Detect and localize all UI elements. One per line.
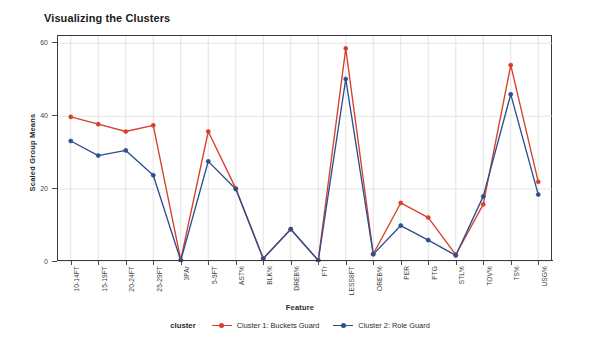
x-axis-tick-label: 20-24FT <box>128 266 135 292</box>
legend-label: Cluster 1: Buckets Guard <box>237 321 320 330</box>
data-point <box>151 173 155 177</box>
x-axis-tick <box>346 261 347 265</box>
data-point <box>206 129 210 133</box>
data-point <box>96 122 100 126</box>
data-point <box>69 115 73 119</box>
data-point <box>509 92 513 96</box>
chart-figure: Visualizing the Clusters 0204060 Scaled … <box>0 0 600 347</box>
data-point <box>454 253 458 257</box>
data-point <box>426 238 430 242</box>
x-axis-tick-label: AST% <box>238 266 245 285</box>
data-point <box>344 46 348 50</box>
y-axis-title: Scaled Group Means <box>28 83 37 223</box>
x-axis-tick <box>291 261 292 265</box>
x-axis-tick <box>318 261 319 265</box>
legend-item[interactable]: Cluster 1: Buckets Guard <box>212 321 320 330</box>
legend: cluster Cluster 1: Buckets GuardCluster … <box>0 321 600 330</box>
x-axis-tick-label: TS% <box>513 266 520 281</box>
data-point <box>206 159 210 163</box>
x-axis-tick-label: 15-19FT <box>101 266 108 292</box>
data-point <box>124 129 128 133</box>
x-axis-tick-label: STL% <box>458 266 465 284</box>
data-point <box>289 227 293 231</box>
x-axis-line <box>57 260 553 261</box>
x-axis-tick <box>483 261 484 265</box>
legend-items: Cluster 1: Buckets GuardCluster 2: Role … <box>212 321 430 330</box>
legend-label: Cluster 2: Role Guard <box>358 321 429 330</box>
y-axis-tick <box>52 115 57 116</box>
x-axis-tick <box>208 261 209 265</box>
x-axis-tick <box>428 261 429 265</box>
data-point <box>481 194 485 198</box>
y-axis-line <box>57 35 58 261</box>
data-point <box>234 187 238 191</box>
x-axis-tick-label: PER <box>403 266 410 280</box>
plot-panel <box>57 35 552 261</box>
legend-item[interactable]: Cluster 2: Role Guard <box>333 321 429 330</box>
y-axis-tick <box>52 188 57 189</box>
data-point <box>124 148 128 152</box>
x-axis-tick <box>98 261 99 265</box>
x-axis-tick <box>181 261 182 265</box>
x-axis-tick <box>153 261 154 265</box>
x-axis-tick <box>511 261 512 265</box>
x-axis-tick <box>456 261 457 265</box>
y-axis-tick <box>52 42 57 43</box>
x-axis-tick-label: PTG <box>431 266 438 280</box>
data-point <box>151 123 155 127</box>
x-axis-tick-label: TOV% <box>486 266 493 286</box>
x-axis-tick <box>401 261 402 265</box>
data-point <box>399 223 403 227</box>
x-axis-tick-label: 5-9FT <box>211 266 218 284</box>
y-axis-tick-label: 0 <box>24 258 48 265</box>
data-point <box>399 201 403 205</box>
x-axis-tick-label: DREB% <box>293 266 300 291</box>
x-axis-title: Feature <box>0 303 600 312</box>
legend-title: cluster <box>170 321 196 330</box>
data-point <box>344 77 348 81</box>
x-axis-tick-label: 25-29FT <box>156 266 163 292</box>
data-point <box>536 192 540 196</box>
x-axis-tick <box>373 261 374 265</box>
data-point <box>69 139 73 143</box>
chart-title: Visualizing the Clusters <box>44 12 170 24</box>
x-axis-tick <box>126 261 127 265</box>
data-point <box>481 202 485 206</box>
x-axis-tick-label: LESS8FT <box>348 266 355 295</box>
x-axis-tick-label: 10-14FT <box>73 266 80 292</box>
data-point <box>536 180 540 184</box>
x-axis-tick-label: BLK% <box>266 266 273 285</box>
x-axis-tick <box>71 261 72 265</box>
y-axis-tick-label: 60 <box>24 39 48 46</box>
x-axis-tick-label: OREB% <box>376 266 383 291</box>
legend-key-icon <box>333 322 353 330</box>
x-axis-tick <box>236 261 237 265</box>
plot-svg <box>57 36 552 262</box>
legend-key-icon <box>212 322 232 330</box>
x-axis-tick-label: USG% <box>541 266 548 287</box>
data-point <box>96 153 100 157</box>
data-point <box>509 63 513 67</box>
x-axis-tick-label: FTr <box>321 266 328 276</box>
data-point <box>426 215 430 219</box>
data-point <box>371 252 375 256</box>
x-axis-tick <box>263 261 264 265</box>
x-axis-tick <box>538 261 539 265</box>
x-axis-tick-label: 3PAr <box>183 266 190 281</box>
y-axis-tick <box>52 261 57 262</box>
